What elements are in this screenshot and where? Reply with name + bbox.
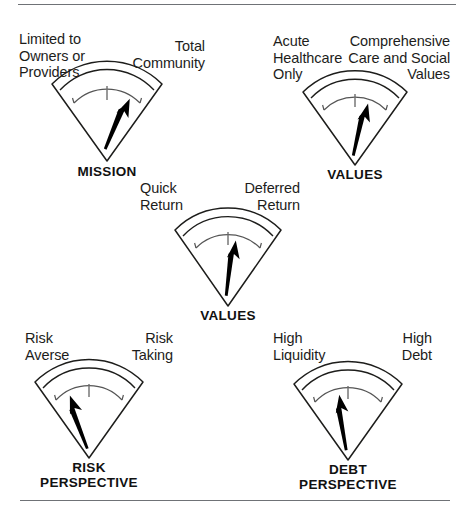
gauge-outer-wedge — [294, 361, 402, 460]
gauge-debt-perspective: High Liquidity High Debt DEBT PERSPECTIV… — [228, 328, 458, 522]
top-divider-rule — [18, 4, 456, 5]
gauge-needle — [349, 102, 374, 157]
gauge-risk-perspective: Risk Averse Risk Taking RISK PERSPECTIVE — [0, 328, 227, 522]
gauge-risk-title: RISK PERSPECTIVE — [19, 460, 159, 490]
gauge-scale-tick-left — [195, 243, 196, 248]
gauge-scale-tick-right — [260, 243, 261, 248]
gauge-scale-tick-left — [73, 98, 75, 103]
gauge-debt-title: DEBT PERSPECTIVE — [278, 462, 418, 492]
gauge-risk-dial — [0, 328, 227, 522]
gauge-scale-tick-left — [55, 395, 56, 400]
gauge-scale-tick-right — [122, 395, 123, 400]
gauge-scale-tick-right — [386, 105, 387, 110]
gauge-scale-tick-left — [323, 105, 324, 110]
gauge-values-return-title: VALUES — [158, 308, 298, 323]
gauge-mission-title: MISSION — [37, 164, 177, 179]
gauge-needle — [64, 393, 95, 450]
gauge-scale-tick-right — [140, 98, 142, 103]
gauge-outer-wedge — [35, 359, 143, 458]
gauge-debt-dial — [228, 328, 458, 522]
gauge-needle — [222, 240, 242, 297]
gauge-scale-tick-right — [381, 397, 382, 402]
gauge-scale-tick-left — [314, 397, 315, 402]
